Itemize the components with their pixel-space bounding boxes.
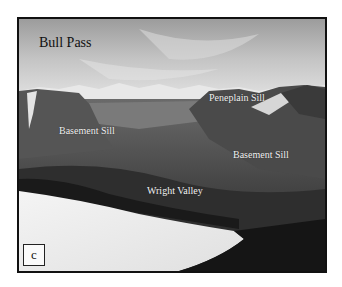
title-label: Bull Pass (39, 35, 92, 51)
panel-letter-box: c (23, 244, 45, 266)
peneplain-sill-label: Peneplain Sill (209, 92, 265, 103)
photo-frame: Bull Pass Peneplain Sill Basement Sill B… (17, 17, 327, 273)
basement-sill-left-label: Basement Sill (59, 125, 115, 136)
wright-valley-label: Wright Valley (147, 185, 203, 196)
landscape-photo (19, 19, 325, 271)
basement-sill-right-label: Basement Sill (233, 149, 289, 160)
